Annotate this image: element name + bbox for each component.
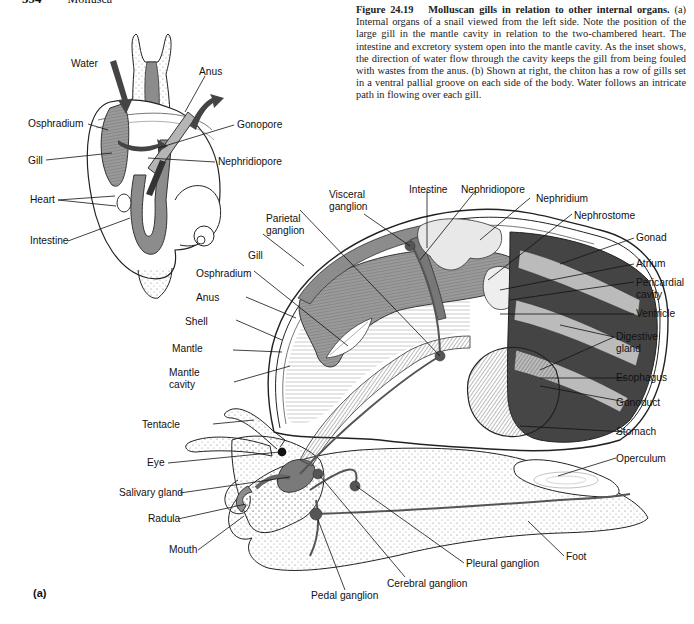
label-ventricle: Ventricle [636,308,675,320]
label-cerebral-ganglion: Cerebral ganglion [387,578,467,590]
inset-label-gill: Gill [28,155,43,167]
inset-label-intestine: Intestine [30,235,69,247]
label-tentacle: Tentacle [142,419,180,431]
label-gill: Gill [248,250,263,262]
label-digestive-gland: Digestive gland [616,331,658,354]
label-pedal-ganglion: Pedal ganglion [311,590,378,602]
label-mouth: Mouth [169,544,197,556]
label-salivary-gland: Salivary gland [119,487,183,499]
label-osphradium: Osphradium [196,268,252,280]
pedal-ganglion-node [310,508,322,520]
main-snail [168,190,668,590]
label-visceral-ganglion: Visceral ganglion [329,189,368,212]
label-foot: Foot [566,551,586,563]
label-nephridium: Nephridium [536,193,588,205]
pleural-ganglion-node [350,481,360,491]
label-operculum: Operculum [616,453,666,465]
label-nephridiopore: Nephridiopore [461,184,525,196]
label-intestine: Intestine [409,184,448,196]
label-radula: Radula [148,513,180,525]
label-parietal-ganglion: Parietal ganglion [266,213,305,236]
inset-heart [117,194,131,212]
label-eye: Eye [147,457,165,469]
inset-label-osphradium: Osphradium [28,118,84,130]
label-anus: Anus [196,292,219,304]
inset-label-heart: Heart [30,194,55,206]
inset-label-gonopore: Gonopore [237,119,282,131]
label-pleural-ganglion: Pleural ganglion [466,558,539,570]
inset-water-arrow-out [190,94,224,130]
label-shell: Shell [185,316,208,328]
label-mantle: Mantle [172,343,203,355]
label-stomach: Stomach [616,426,656,438]
snail-illustration [0,0,694,624]
label-mantle-cavity: Mantle cavity [169,367,200,390]
inset-label-anus: Anus [199,66,222,78]
label-pericardial-cavity: Pericardial cavity [636,277,684,300]
inset-label-nephridiopore: Nephridiopore [218,156,282,168]
label-gonoduct: Gonoduct [616,397,660,409]
stomach [468,347,560,436]
label-esophagus: Esophagus [616,372,667,384]
label-gonad: Gonad [636,232,667,244]
label-nephrostome: Nephrostome [574,210,635,222]
inset-label-water: Water [71,58,98,70]
label-atrium: Atrium [636,258,665,270]
panel-letter: (a) [33,587,46,599]
